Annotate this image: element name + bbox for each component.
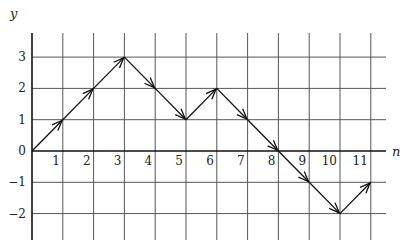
x-tick-label: 6: [206, 154, 214, 168]
x-tick-label: 7: [237, 154, 245, 168]
path-segment: [340, 182, 371, 213]
grid-lines: [32, 33, 386, 240]
x-tick-label: 2: [83, 154, 91, 168]
path-segment: [155, 88, 186, 119]
y-tick-label: 2: [18, 81, 26, 95]
y-tick-label: 1: [18, 113, 26, 127]
tick-labels: 12345678910113210−1−2: [8, 50, 368, 221]
path-segment: [217, 88, 248, 119]
random-walk-chart: 12345678910113210−1−2 y n: [0, 0, 415, 247]
x-tick-label: 11: [353, 154, 368, 168]
axes: [32, 33, 386, 240]
x-tick-label: 10: [322, 154, 337, 168]
path-segment: [186, 88, 217, 119]
path-segment: [94, 57, 125, 88]
x-axis-label: n: [392, 144, 400, 159]
y-tick-label: 3: [18, 50, 26, 64]
x-tick-label: 5: [175, 154, 183, 168]
x-tick-label: 4: [145, 154, 153, 168]
walk-path: [32, 57, 371, 214]
path-segment: [248, 120, 279, 151]
x-tick-label: 3: [114, 154, 122, 168]
x-tick-label: 8: [268, 154, 276, 168]
path-segment: [32, 120, 63, 151]
x-tick-label: 1: [52, 154, 60, 168]
y-axis-label: y: [9, 6, 18, 21]
x-tick-label: 9: [299, 154, 307, 168]
path-segment: [63, 88, 94, 119]
y-tick-label: 0: [18, 144, 26, 158]
path-segment: [309, 182, 340, 213]
path-segment: [124, 57, 155, 88]
y-tick-label: −2: [8, 207, 26, 221]
y-tick-label: −1: [8, 175, 26, 189]
